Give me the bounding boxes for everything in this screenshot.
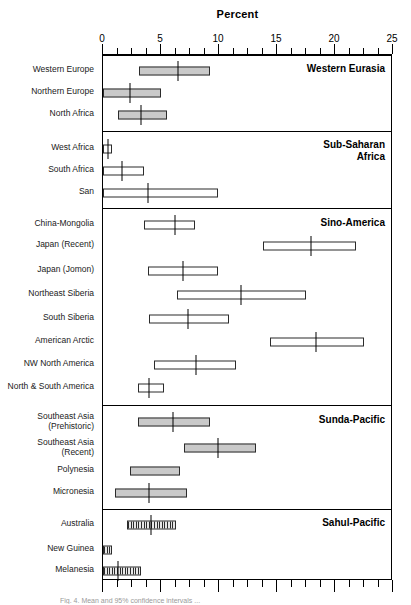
median-marker [141,105,142,125]
x-axis-minor-tick [349,48,350,54]
x-axis-major-tick [334,580,335,592]
group-divider [103,405,391,406]
x-axis-minor-tick [117,48,118,54]
category-label: Melanesia [0,565,98,575]
x-axis-minor-tick [262,580,263,587]
median-marker [150,515,151,535]
category-label: Northern Europe [0,87,98,97]
x-axis-minor-tick [146,580,147,587]
category-label: South Siberia [0,313,98,323]
x-axis-tick-label: 25 [386,33,397,44]
category-label: Japan (Jomon) [0,265,98,275]
x-axis-minor-tick [175,48,176,54]
x-axis-minor-tick [378,48,379,54]
category-label: NW North America [0,359,98,369]
x-axis-minor-tick [305,580,306,587]
median-marker [172,412,173,432]
category-label: North Africa [0,109,98,119]
x-axis-minor-tick [146,48,147,54]
x-axis-minor-tick [320,580,321,587]
range-bar [127,521,176,530]
plot-area: Western EurasiaSub-Saharan AfricaSino-Am… [102,55,392,580]
x-axis-minor-tick [117,580,118,587]
category-label: Southeast Asia (Prehistoric) [0,412,98,431]
group-heading-sahul-pacific: Sahul-Pacific [322,517,385,529]
x-axis-minor-tick [233,48,234,54]
median-marker [174,215,175,235]
x-axis-major-tick [276,580,277,592]
median-marker [118,561,119,581]
group-heading-sino-america: Sino-America [321,217,385,229]
group-heading-sunda-pacific: Sunda-Pacific [319,414,385,426]
x-axis-tick-label: 15 [270,33,281,44]
x-axis-minor-tick [291,580,292,587]
median-marker [149,483,150,503]
category-label: San [0,187,98,197]
range-bar [103,546,112,555]
x-axis-minor-tick [175,580,176,587]
category-label: West Africa [0,143,98,153]
category-label: North & South America [0,382,98,392]
x-axis-minor-tick [320,48,321,54]
category-label: Australia [0,519,98,529]
x-axis-tick-label: 10 [212,33,223,44]
category-label: Western Europe [0,65,98,75]
range-bar [103,167,144,176]
x-axis-minor-tick [131,48,132,54]
group-divider [103,208,391,209]
median-marker [121,161,122,181]
x-axis-major-tick [160,44,161,54]
x-axis-major-tick [276,44,277,54]
range-bar [139,67,210,76]
median-marker [148,183,149,203]
x-axis-minor-tick [189,48,190,54]
x-axis-major-tick [160,580,161,592]
category-label: Southeast Asia (Recent) [0,438,98,457]
category-label: South Africa [0,165,98,175]
axis-title: Percent [0,8,411,20]
category-label: Northeast Siberia [0,289,98,299]
figure-caption: Fig. 4. Mean and 95% confidence interval… [60,597,400,604]
range-bar [118,111,167,120]
x-axis-tick-label: 20 [328,33,339,44]
range-bar [270,338,364,347]
category-label: Polynesia [0,465,98,475]
x-axis-minor-tick [131,580,132,587]
x-axis-minor-tick [305,48,306,54]
median-marker [178,61,179,81]
category-label: China-Mongolia [0,219,98,229]
group-divider [103,131,391,132]
x-axis-major-tick [218,580,219,592]
x-axis-major-tick [102,580,103,592]
group-heading-western-eurasia: Western Eurasia [307,63,385,75]
x-axis-bottom [102,580,392,594]
x-axis-tick-label: 5 [157,33,163,44]
median-marker [149,378,150,398]
x-axis-minor-tick [247,580,248,587]
x-axis-major-tick [392,580,393,592]
figure: Percent 0510152025 Western EurasiaSub-Sa… [0,0,411,605]
x-axis-minor-tick [262,48,263,54]
range-bar [130,467,180,476]
category-label: Micronesia [0,487,98,497]
median-marker [195,355,196,375]
range-bar [103,567,141,576]
category-label: New Guinea [0,544,98,554]
x-axis-minor-tick [363,48,364,54]
median-marker [241,285,242,305]
x-axis-minor-tick [363,580,364,587]
range-bar [144,221,195,230]
median-marker [310,236,311,256]
group-divider [103,509,391,510]
x-axis-minor-tick [247,48,248,54]
median-marker [183,261,184,281]
x-axis-minor-tick [189,580,190,587]
x-axis-major-tick [334,44,335,54]
x-axis-minor-tick [204,48,205,54]
x-axis-minor-tick [233,580,234,587]
x-axis-minor-tick [378,580,379,587]
range-bar [138,418,210,427]
median-marker [129,83,130,103]
x-axis-minor-tick [291,48,292,54]
x-axis-major-tick [218,44,219,54]
